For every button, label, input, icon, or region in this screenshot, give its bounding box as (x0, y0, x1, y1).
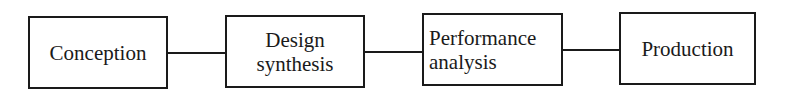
node-label: Conception (50, 41, 147, 65)
connector-performance-production (562, 49, 620, 51)
connector-design-performance (364, 51, 423, 53)
node-label: Production (641, 37, 733, 61)
node-label-line-2: analysis (429, 50, 497, 74)
node-conception: Conception (28, 16, 168, 89)
node-label-line-1: Design (265, 28, 325, 52)
node-performance-analysis: Performance analysis (422, 13, 563, 86)
node-label-line-2: synthesis (256, 52, 333, 76)
node-label-line-1: Performance (429, 26, 536, 50)
node-design-synthesis: Design synthesis (225, 15, 365, 88)
connector-conception-design (167, 52, 226, 54)
node-production: Production (619, 12, 756, 85)
